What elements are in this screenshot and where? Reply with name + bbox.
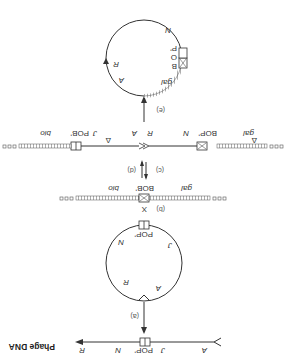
- b-site-label: B: [172, 62, 177, 71]
- gal-gene-label: gal: [161, 78, 172, 87]
- gene-a-label: A: [132, 129, 138, 138]
- bio-gene-label: bio: [108, 184, 119, 193]
- step-b: X (b): [141, 205, 165, 214]
- step-e: (e): [141, 96, 165, 122]
- phage-dna-title: Phage DNA: [9, 342, 55, 352]
- bacterial-chromosome: BOB' gal bio: [60, 184, 226, 202]
- gene-r-label: R: [113, 60, 119, 69]
- svg-text:(e): (e): [156, 106, 165, 114]
- gene-a-label: A: [156, 284, 162, 293]
- circular-phage: POP' A R J N: [106, 221, 182, 301]
- delta-symbol: Δ: [105, 136, 111, 145]
- gal-gene-label: gal: [181, 184, 192, 193]
- gene-j-label: J: [160, 346, 166, 355]
- lambda-integration-diagram: Phage DNA POP' A J N R (a) POP' A R J N …: [0, 0, 289, 358]
- svg-text:(a): (a): [130, 312, 139, 320]
- gene-r-label: R: [79, 346, 85, 355]
- bob-site-label: BOB': [135, 184, 154, 193]
- pob-site-label: POB': [70, 129, 89, 138]
- crossover-symbol: X: [141, 205, 147, 214]
- step-a: (a): [130, 302, 147, 334]
- o-site-label: O: [171, 53, 177, 62]
- gene-j-label: J: [167, 241, 173, 250]
- gene-n-label: N: [183, 129, 189, 138]
- arrow-right-icon: [75, 339, 83, 345]
- linear-phage-dna: Phage DNA POP' A J N R: [9, 338, 221, 355]
- diagram-stage: Phage DNA POP' A J N R (a) POP' A R J N …: [0, 0, 289, 358]
- excised-circle: B O P' N R A gal: [103, 20, 187, 96]
- bio-gene-label: bio: [40, 129, 51, 138]
- gene-r-label: R: [147, 129, 153, 138]
- gene-a-label: A: [119, 76, 125, 85]
- pop-site-label: POP': [134, 230, 153, 239]
- svg-text:(c): (c): [156, 166, 164, 174]
- pop-site-label: POP': [134, 346, 153, 355]
- gene-a-label: A: [202, 346, 208, 355]
- bop-site-label: BOP': [198, 129, 217, 138]
- steps-c-d: (c) (d): [127, 160, 164, 180]
- gene-j-label: J: [92, 129, 98, 138]
- integrated-prophage: Δ Δ BOP' POB' gal bio N R A J: [3, 129, 283, 150]
- cohesive-end-icon: [214, 338, 221, 346]
- svg-text:(b): (b): [156, 205, 165, 213]
- p-site-label: P': [170, 44, 177, 53]
- svg-text:(d): (d): [127, 166, 136, 174]
- gene-n-label: N: [165, 26, 171, 35]
- gene-n-label: N: [115, 346, 121, 355]
- gene-n-label: N: [118, 238, 124, 247]
- gal-gene-label: gal: [243, 129, 254, 138]
- gene-r-label: R: [123, 278, 129, 287]
